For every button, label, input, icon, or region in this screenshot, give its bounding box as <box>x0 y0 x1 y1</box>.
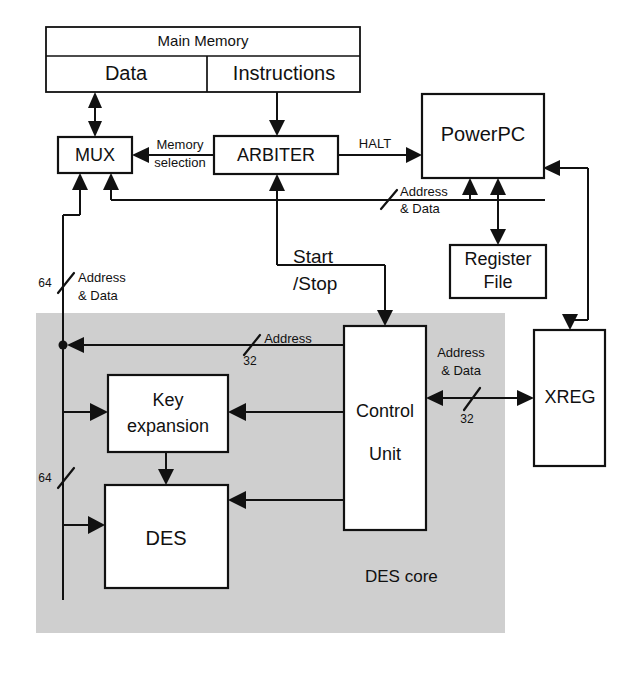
architecture-diagram: DES core Main Memory Data Instructions M… <box>0 0 635 675</box>
diagram-canvas: DES core Main Memory Data Instructions M… <box>0 0 635 675</box>
xreg-bus-width: 32 <box>460 412 474 426</box>
start-stop-label-line2: /Stop <box>293 273 337 294</box>
left-bus-width-upper: 64 <box>38 276 52 290</box>
control-address-width: 32 <box>243 354 257 368</box>
start-stop-label-line1: Start <box>293 246 334 267</box>
register-file-label-line1: Register <box>464 249 531 269</box>
address-data-bus-label-line2: & Data <box>400 201 441 216</box>
main-memory-label: Main Memory <box>158 32 249 49</box>
control-unit-label-line2: Unit <box>369 444 401 464</box>
xreg-bus-label-line1: Address <box>437 345 485 360</box>
arbiter-label: ARBITER <box>237 145 315 165</box>
instructions-partition-label: Instructions <box>233 62 335 84</box>
key-expansion-label-line2: expansion <box>127 416 209 436</box>
register-file-label-line2: File <box>483 272 512 292</box>
control-unit-box <box>344 326 426 530</box>
control-address-label: Address <box>264 331 312 346</box>
key-expansion-box <box>108 375 228 452</box>
memory-selection-label-line2: selection <box>154 155 205 170</box>
mux-label: MUX <box>75 145 115 165</box>
left-bus-width-lower: 64 <box>38 471 52 485</box>
powerpc-label: PowerPC <box>441 123 525 145</box>
xreg-bus-label-line2: & Data <box>441 363 482 378</box>
halt-label: HALT <box>359 136 391 151</box>
des-label: DES <box>145 527 186 549</box>
address-data-bus-label-line1: Address <box>400 184 448 199</box>
left-bus-label-line1: Address <box>78 270 126 285</box>
key-expansion-label-line1: Key <box>152 390 183 410</box>
des-core-label: DES core <box>365 567 438 586</box>
xreg-label: XREG <box>544 387 595 407</box>
left-bus-label-line2: & Data <box>78 288 119 303</box>
data-partition-label: Data <box>105 62 148 84</box>
left-bus-junction-dot <box>59 341 68 350</box>
control-unit-label-line1: Control <box>356 401 414 421</box>
memory-selection-label-line1: Memory <box>157 137 204 152</box>
